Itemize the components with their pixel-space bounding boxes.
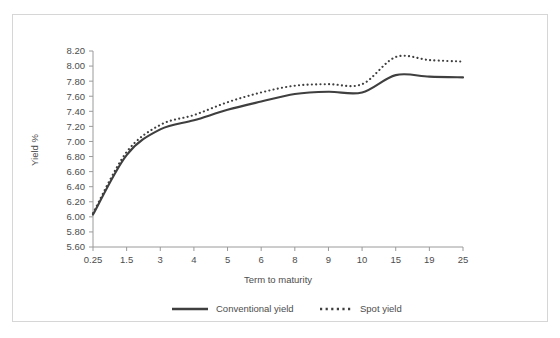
y-tick-label: 8.00 bbox=[67, 60, 86, 71]
chart-svg: Yield % 8.208.007.807.607.407.207.006.80… bbox=[0, 0, 560, 338]
x-tick-label: 3 bbox=[158, 254, 163, 265]
y-tick-label: 5.80 bbox=[67, 226, 86, 237]
y-tick-label: 7.40 bbox=[67, 106, 86, 117]
x-tick-label: 9 bbox=[326, 254, 331, 265]
x-axis-title: Term to maturity bbox=[244, 274, 312, 285]
x-tick-label: 6 bbox=[259, 254, 264, 265]
series-conventional-yield bbox=[93, 74, 463, 214]
y-tick-label: 6.20 bbox=[67, 196, 86, 207]
y-tick-label: 6.80 bbox=[67, 151, 86, 162]
x-tick-label: 19 bbox=[424, 254, 435, 265]
y-tick-label: 7.00 bbox=[67, 136, 86, 147]
x-axis-ticks: 0.251.534568910151925 bbox=[84, 247, 469, 265]
x-tick-label: 10 bbox=[357, 254, 368, 265]
x-tick-label: 8 bbox=[292, 254, 297, 265]
y-axis-ticks: 8.208.007.807.607.407.207.006.806.606.40… bbox=[67, 45, 94, 252]
x-tick-label: 25 bbox=[458, 254, 469, 265]
y-tick-label: 6.40 bbox=[67, 181, 86, 192]
yield-curve-chart: Yield % 8.208.007.807.607.407.207.006.80… bbox=[0, 0, 560, 338]
y-tick-label: 6.00 bbox=[67, 211, 86, 222]
y-tick-label: 5.60 bbox=[67, 241, 86, 252]
legend-label-spot-yield: Spot yield bbox=[360, 303, 402, 314]
y-tick-label: 8.20 bbox=[67, 45, 86, 56]
y-tick-label: 7.80 bbox=[67, 76, 86, 87]
y-axis-title: Yield % bbox=[29, 134, 40, 166]
x-tick-label: 1.5 bbox=[120, 254, 133, 265]
chart-legend: Conventional yield Spot yield bbox=[172, 303, 402, 314]
x-tick-label: 15 bbox=[390, 254, 401, 265]
x-tick-label: 5 bbox=[225, 254, 230, 265]
x-tick-label: 0.25 bbox=[84, 254, 103, 265]
legend-label-conventional-yield: Conventional yield bbox=[216, 303, 294, 314]
y-tick-label: 7.20 bbox=[67, 121, 86, 132]
series-spot-yield bbox=[93, 56, 463, 213]
y-tick-label: 6.60 bbox=[67, 166, 86, 177]
x-tick-label: 4 bbox=[191, 254, 196, 265]
y-tick-label: 7.60 bbox=[67, 91, 86, 102]
